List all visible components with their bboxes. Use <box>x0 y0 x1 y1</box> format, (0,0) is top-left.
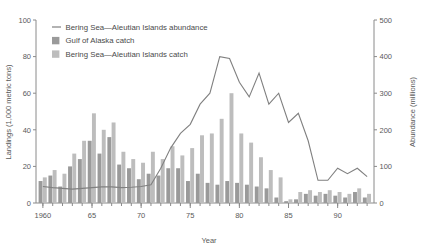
bar <box>176 168 180 203</box>
bar <box>53 170 57 203</box>
bar <box>279 177 283 203</box>
bar <box>269 170 273 203</box>
bar <box>43 177 47 203</box>
right-axis-tick-label: 400 <box>380 52 393 61</box>
bar <box>200 135 204 203</box>
left-axis-tick-label: 80 <box>23 52 31 61</box>
bar <box>72 154 76 203</box>
bar <box>314 196 318 203</box>
bar <box>304 194 308 203</box>
bar <box>245 185 249 203</box>
bar <box>347 194 351 203</box>
bar <box>235 183 239 203</box>
left-axis-tick-label: 40 <box>23 126 31 135</box>
bar <box>161 159 165 203</box>
bottom-axis-title: Year <box>201 236 217 245</box>
bar <box>274 198 278 203</box>
bar <box>206 183 210 203</box>
plot-background <box>0 0 426 249</box>
right-axis-tick-label: 200 <box>380 126 393 135</box>
bar <box>338 192 342 203</box>
right-axis-tick-label: 300 <box>380 89 393 98</box>
bar <box>112 122 116 203</box>
bar <box>82 141 86 203</box>
bar <box>157 176 161 203</box>
bar <box>220 119 224 203</box>
bar <box>88 141 92 203</box>
bar <box>141 163 145 203</box>
legend-swatch <box>52 50 59 57</box>
bar <box>102 130 106 203</box>
left-axis-tick-label: 60 <box>23 89 31 98</box>
right-axis-tick-label: 100 <box>380 162 393 171</box>
bar <box>166 168 170 203</box>
bar <box>259 157 263 203</box>
bottom-axis-tick-label: 85 <box>284 211 292 220</box>
bottom-axis-tick-label: 1960 <box>35 211 52 220</box>
bar <box>98 154 102 203</box>
bar <box>68 166 72 203</box>
bar <box>333 196 337 203</box>
bar <box>210 133 214 203</box>
bar <box>171 146 175 203</box>
bar <box>48 176 52 203</box>
bar <box>121 152 125 203</box>
bar <box>294 199 298 203</box>
legend-item-label: Bering Sea—Aleutian Islands abundance <box>66 23 208 32</box>
bar <box>78 159 82 203</box>
bar <box>58 187 62 203</box>
bar <box>328 190 332 203</box>
legend-item-label: Bering Sea—Aleutian Islands catch <box>66 50 188 59</box>
bar <box>127 168 131 203</box>
left-axis-tick-label: 0 <box>27 199 31 208</box>
bar <box>357 188 361 203</box>
bottom-axis-tick-label: 65 <box>88 211 96 220</box>
bar <box>107 137 111 203</box>
left-axis-tick-label: 100 <box>18 16 31 25</box>
bar <box>324 194 328 203</box>
bar <box>318 192 322 203</box>
bar <box>180 155 184 203</box>
bar <box>190 148 194 203</box>
right-axis-tick-label: 500 <box>380 16 393 25</box>
bar <box>284 201 288 203</box>
bar <box>255 187 259 203</box>
right-axis-tick-label: 0 <box>380 199 384 208</box>
legend-swatch <box>52 37 59 44</box>
bar <box>363 198 367 203</box>
bar <box>353 192 357 203</box>
bottom-axis-tick-label: 75 <box>186 211 194 220</box>
bar <box>225 181 229 203</box>
right-axis-title: Abundance (millions) <box>408 76 417 147</box>
bar <box>308 190 312 203</box>
bottom-axis-tick-label: 80 <box>235 211 243 220</box>
legend-item-label: Gulf of Alaska catch <box>66 36 135 45</box>
left-axis-tick-label: 20 <box>23 162 31 171</box>
bar <box>147 174 151 203</box>
chart-container: 020406080100 0100200300400500 1960657075… <box>0 0 426 249</box>
bottom-axis-tick-label: 70 <box>137 211 145 220</box>
bar <box>215 185 219 203</box>
bottom-axis-tick-label: 90 <box>333 211 341 220</box>
bar <box>265 188 269 203</box>
bar <box>196 174 200 203</box>
bar <box>239 133 243 203</box>
bar <box>117 165 121 203</box>
bar <box>39 181 43 203</box>
bar <box>151 152 155 203</box>
bar <box>131 159 135 203</box>
left-axis-title: Landings (1,000 metric tons) <box>4 64 13 160</box>
bar <box>249 143 253 203</box>
bar <box>298 192 302 203</box>
bar <box>367 194 371 203</box>
fishery-landings-abundance-chart: 020406080100 0100200300400500 1960657075… <box>0 0 426 249</box>
bar <box>288 199 292 203</box>
bar <box>137 179 141 203</box>
bar <box>343 198 347 203</box>
bar <box>186 181 190 203</box>
bar <box>92 113 96 203</box>
bar <box>230 93 234 203</box>
